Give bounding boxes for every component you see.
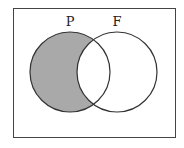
venn-diagram: P F [0,0,184,148]
set-f-label: F [112,14,121,29]
set-p-label: P [66,14,75,29]
